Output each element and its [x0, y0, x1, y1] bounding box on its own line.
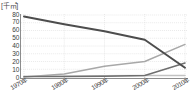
line-chart: [千㎡] 80706050403020100 1970年1980年1990年20…: [0, 0, 191, 104]
x-axis-tick-label: 2000年: [131, 76, 151, 92]
x-axis-tick-label: 1980年: [50, 76, 70, 92]
x-axis-tick-label: 1990年: [90, 76, 110, 92]
x-axis-tick-labels: 1970年1980年1990年2000年2010年: [0, 0, 191, 104]
x-axis-tick-label: 1970年: [9, 76, 29, 92]
x-axis-tick-label: 2010年: [171, 76, 191, 92]
